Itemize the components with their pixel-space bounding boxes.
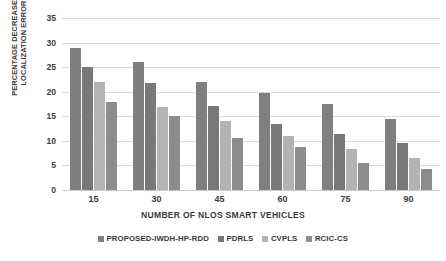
bar[interactable] <box>145 83 156 190</box>
bar[interactable] <box>70 48 81 191</box>
x-tick-label-60: 60 <box>251 192 314 208</box>
bar-chart: PERCENTAGE DECREASE IN LOCALIZATION ERRO… <box>0 0 446 261</box>
y-tick-label-35: 35 <box>32 14 56 23</box>
bar-group-60 <box>251 18 314 190</box>
bar[interactable] <box>385 119 396 190</box>
y-tick-label-5: 5 <box>32 161 56 170</box>
legend-swatch-icon <box>98 236 104 242</box>
bar[interactable] <box>397 143 408 190</box>
bar[interactable] <box>196 82 207 190</box>
legend-label: PDRLS <box>226 234 253 243</box>
y-tick-label-15: 15 <box>32 112 56 121</box>
legend-label: CVPLS <box>271 234 298 243</box>
bar-group-45 <box>188 18 251 190</box>
legend-item[interactable]: CVPLS <box>262 234 297 243</box>
y-tick-label-10: 10 <box>32 136 56 145</box>
bar[interactable] <box>94 82 105 190</box>
bar[interactable] <box>259 93 270 190</box>
x-tick-label-45: 45 <box>188 192 251 208</box>
legend-swatch-icon <box>306 236 312 242</box>
bar-group-30 <box>125 18 188 190</box>
bar[interactable] <box>169 116 180 190</box>
x-tick-label-75: 75 <box>314 192 377 208</box>
legend-label: PROPOSED-IWDH-HP-RDD <box>106 234 209 243</box>
bar[interactable] <box>334 134 345 191</box>
y-axis-title-line-1: PERCENTAGE DECREASE IN <box>10 0 20 96</box>
chart-legend: PROPOSED-IWDH-HP-RDDPDRLSCVPLSRCIC-CS <box>0 234 446 243</box>
bar[interactable] <box>358 163 369 190</box>
legend-item[interactable]: PDRLS <box>218 234 253 243</box>
bar[interactable] <box>322 104 333 190</box>
legend-swatch-icon <box>262 236 268 242</box>
plot-area <box>62 18 440 190</box>
bar[interactable] <box>421 169 432 190</box>
x-axis-title: NUMBER OF NLOS SMART VEHICLES <box>0 210 446 220</box>
y-axis-title-line-2: LOCALIZATION ERROR <box>19 1 29 86</box>
gridline-0 <box>62 190 440 191</box>
x-tick-label-30: 30 <box>125 192 188 208</box>
bar[interactable] <box>106 102 117 190</box>
y-tick-label-20: 20 <box>32 87 56 96</box>
bar-group-75 <box>314 18 377 190</box>
bar[interactable] <box>220 121 231 190</box>
bar[interactable] <box>283 136 294 190</box>
bar[interactable] <box>232 138 243 190</box>
bar[interactable] <box>133 62 144 190</box>
y-axis-tick-labels: 05101520253035 <box>32 0 56 261</box>
x-tick-label-15: 15 <box>62 192 125 208</box>
bar[interactable] <box>295 147 306 190</box>
y-tick-label-30: 30 <box>32 38 56 47</box>
legend-item[interactable]: PROPOSED-IWDH-HP-RDD <box>98 234 209 243</box>
x-tick-label-90: 90 <box>377 192 440 208</box>
legend-item[interactable]: RCIC-CS <box>306 234 348 243</box>
bar[interactable] <box>208 106 219 190</box>
bar-group-90 <box>377 18 440 190</box>
bar[interactable] <box>409 158 420 190</box>
bar[interactable] <box>82 67 93 190</box>
y-tick-label-25: 25 <box>32 63 56 72</box>
legend-label: RCIC-CS <box>315 234 348 243</box>
bar[interactable] <box>271 124 282 190</box>
legend-swatch-icon <box>218 236 224 242</box>
bar[interactable] <box>157 107 168 190</box>
bar-group-15 <box>62 18 125 190</box>
y-axis-title: PERCENTAGE DECREASE IN LOCALIZATION ERRO… <box>4 0 34 128</box>
x-axis-tick-labels: 153045607590 <box>62 192 440 208</box>
y-tick-label-0: 0 <box>32 186 56 195</box>
bar-groups <box>62 18 440 190</box>
bar[interactable] <box>346 149 357 190</box>
